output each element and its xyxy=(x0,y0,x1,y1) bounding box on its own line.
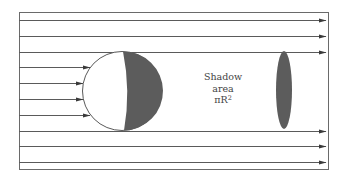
label-line-shadow: Shadow xyxy=(188,71,258,83)
sphere xyxy=(83,51,163,130)
shadow-area-diagram xyxy=(0,0,345,180)
shadow-area-label: Shadow area πR2 xyxy=(188,71,258,106)
formula-exponent: 2 xyxy=(228,94,232,102)
shadow-ellipse xyxy=(276,51,292,129)
formula-base: πR xyxy=(214,94,227,105)
sphere-shaded-crescent xyxy=(123,51,163,130)
label-formula: πR2 xyxy=(188,94,258,106)
label-line-area: area xyxy=(188,83,258,95)
